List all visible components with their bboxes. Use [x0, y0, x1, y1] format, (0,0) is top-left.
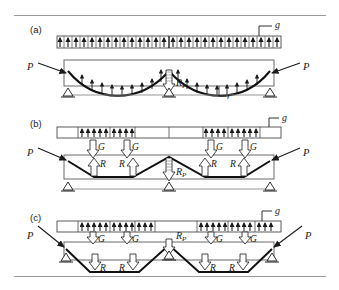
- panel-b-group: g G G G G: [26, 112, 310, 191]
- panel-c-label-R-4: R: [228, 263, 235, 273]
- panel-c-label-P-left: P: [26, 230, 34, 241]
- panel-a-load-strip: [57, 36, 281, 48]
- panel-a-prestress-left: [38, 63, 66, 73]
- panel-b-support-left: [61, 182, 75, 191]
- panel-c-label-G-3: G: [216, 234, 223, 244]
- panel-b-label-R-3: R: [210, 159, 217, 169]
- panel-a-support-center: [162, 88, 176, 97]
- panel-a-label-P-left: P: [26, 61, 34, 72]
- panel-b-label-G-3: G: [216, 142, 223, 152]
- panel-c-label-R-1: R: [99, 263, 106, 273]
- panel-b-label-P-left: P: [26, 147, 34, 158]
- panel-b-label-G-1: G: [98, 142, 105, 152]
- panel-b-label-R-4: R: [229, 159, 236, 169]
- figure-canvas: (a) (b) (c): [0, 0, 339, 290]
- panel-b-label-G-2: G: [132, 142, 139, 152]
- panel-c-label-G-2: G: [132, 234, 139, 244]
- panel-b-label-P-right: P: [302, 147, 310, 158]
- panel-a-g-leader: [259, 26, 272, 36]
- panel-b-label-R-2: R: [118, 159, 125, 169]
- panel-b-prestress-left: [38, 148, 66, 160]
- panel-b-support-right: [263, 182, 277, 191]
- panel-a-r-leader: [219, 86, 226, 96]
- panel-a-label-P-right: P: [302, 61, 310, 72]
- panel-c-label-g: g: [275, 205, 280, 216]
- diagram-svg: g: [0, 0, 339, 290]
- panel-b-prestress-right: [272, 148, 300, 160]
- panel-a-support-left: [61, 88, 75, 97]
- panel-c-label-R-2: R: [118, 263, 125, 273]
- panel-b-label-g: g: [282, 112, 287, 123]
- panel-b-label-R-1: R: [99, 159, 106, 169]
- panel-a-prestress-right: [272, 63, 300, 73]
- panel-a-label-g: g: [275, 19, 280, 30]
- panel-c-g-leader: [262, 211, 272, 221]
- panel-b-support-center: [162, 182, 176, 191]
- panel-b-load-strip: [57, 127, 281, 138]
- panel-a-support-right: [263, 88, 277, 97]
- panel-c-load-strip: [57, 221, 281, 232]
- panel-c-label-G-1: G: [98, 234, 105, 244]
- panel-a-label-r: r: [227, 91, 231, 101]
- panel-c-label-P-right: P: [304, 230, 312, 241]
- panel-b-g-leader: [269, 118, 279, 127]
- panel-b-label-G-4: G: [250, 142, 257, 152]
- panel-c-label-R-3: R: [209, 263, 216, 273]
- panel-c-group: g G G G G: [26, 205, 312, 273]
- panel-c-label-G-4: G: [250, 234, 257, 244]
- panel-a-group: g: [26, 19, 310, 101]
